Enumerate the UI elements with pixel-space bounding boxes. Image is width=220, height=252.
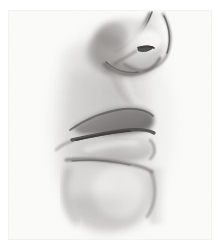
paper-grain [8, 10, 212, 240]
profile-drawing [0, 0, 220, 252]
artwork-frame: Profile study of nose, lips and chin gra… [0, 0, 220, 252]
drawing-content [8, 10, 212, 240]
